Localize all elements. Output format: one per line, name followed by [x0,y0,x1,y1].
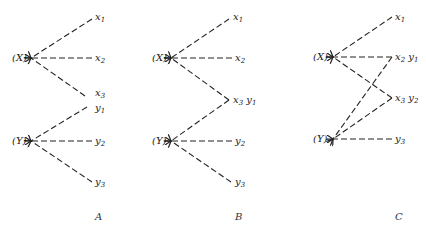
node-x-c: (X) [313,52,328,62]
edge-a-x-x1 [31,19,92,58]
node-y-a: (Y) [12,136,26,146]
label-b-x3-y1: x3 y1 [233,95,256,108]
edge-c-y-y1 [333,57,392,139]
label-a-y2: y2 [95,136,105,149]
node-y-b: (Y) [152,136,166,146]
edge-b-y-y1 [171,100,229,141]
caption-a: A [95,211,102,222]
label-c-x2-y1: x2 y1 [395,52,418,65]
label-a-y1: y1 [95,103,105,116]
node-y-c: (Y) [313,134,327,144]
edge-c-y-y2 [333,98,392,139]
edge-a-y-y3 [31,141,92,182]
label-b-x2: x2 [235,53,245,66]
edge-c-x-x3 [333,57,392,98]
edge-b-x-x3 [171,58,229,100]
label-a-y3: y3 [95,177,105,190]
label-b-y3: y3 [235,177,245,190]
label-b-x1: x1 [233,12,243,25]
label-a-x3: x3 [95,88,105,101]
label-b-y2: y2 [235,136,245,149]
caption-b: B [235,211,242,222]
caption-c: C [395,211,403,222]
label-c-x3-y2: x3 y2 [395,93,418,106]
edge-b-x-x1 [171,19,229,58]
edge-c-x-x1 [333,17,392,57]
node-x-a: (X) [12,53,27,63]
label-c-x1: x1 [395,12,405,25]
label-a-x1: x1 [95,12,105,25]
edge-a-y-y1 [31,107,87,141]
edge-b-y-y3 [171,141,231,182]
diagram-lines [0,0,426,234]
label-c-y3: y3 [395,134,405,147]
node-x-b: (X) [152,53,167,63]
edge-a-x-x3 [31,58,85,96]
label-a-x2: x2 [95,53,105,66]
